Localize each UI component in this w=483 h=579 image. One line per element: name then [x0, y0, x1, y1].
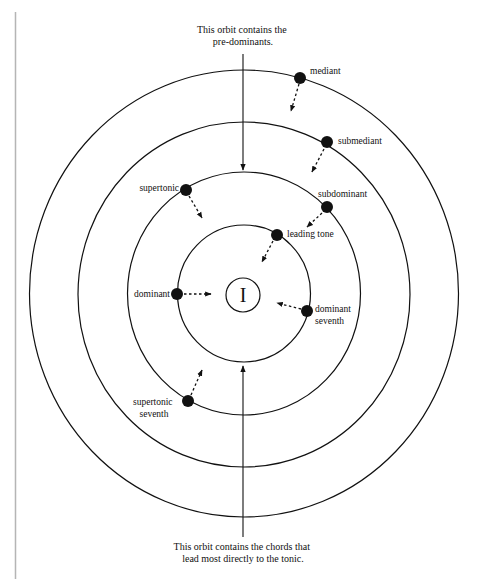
dominant-label: dominant	[134, 289, 170, 299]
supertonic-seventh-label: supertonic seventh	[133, 397, 175, 419]
bottom-caption: This orbit contains the chords that lead…	[174, 541, 313, 564]
supertonic-dot	[180, 184, 192, 196]
top-caption: This orbit contains the pre-dominants.	[197, 24, 289, 47]
subdominant-label: subdominant	[318, 189, 367, 199]
supertonic-seventh-dot	[182, 395, 194, 407]
submediant-arrow	[312, 149, 324, 172]
submediant-dot	[321, 136, 333, 148]
supertonic-label: supertonic	[139, 183, 179, 193]
dominant-dot	[171, 288, 183, 300]
leading-tone-dot	[271, 229, 283, 241]
leading-tone-label: leading tone	[287, 229, 334, 239]
tonic-symbol: I	[240, 284, 247, 306]
subdominant-dot	[321, 201, 333, 213]
submediant-label: submediant	[338, 136, 382, 146]
orbit-diagram: I This orbit contains the pre-dominants.…	[0, 0, 483, 579]
tonic-node: I	[226, 278, 260, 312]
subdominant-arrow	[307, 213, 322, 227]
mediant-label: mediant	[310, 66, 341, 76]
dominant-seventh-label: dominant seventh	[315, 304, 353, 326]
leading-tone-arrow	[262, 241, 273, 262]
supertonic-seventh-arrow	[191, 370, 202, 395]
mediant-arrow	[291, 84, 299, 111]
dominant-seventh-dot	[301, 305, 313, 317]
dominant-seventh-arrow	[277, 303, 301, 309]
supertonic-arrow	[189, 196, 202, 218]
mediant-dot	[294, 72, 306, 84]
